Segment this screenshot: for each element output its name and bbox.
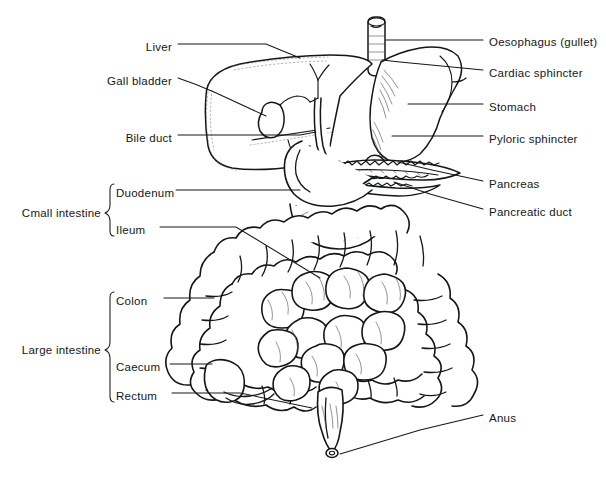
anus-organ [326,449,338,458]
label-rectum: Rectum [116,390,157,402]
label-gall-bladder: Gall bladder [107,75,172,87]
label-pyloric-sphincter: Pyloric sphincter [489,133,578,145]
label-large-intestine: Large intestine [22,344,101,356]
label-caecum: Caecum [116,361,160,373]
label-oesophagus: Oesophagus (gullet) [489,36,597,48]
label-pancreatic-duct: Pancreatic duct [489,206,573,218]
label-pancreas: Pancreas [489,178,540,190]
label-colon: Colon [116,295,147,307]
label-cardiac-sphincter: Cardiac sphincter [489,67,583,79]
label-duodenum: Duodenum [116,187,174,199]
label-bile-duct: Bile duct [126,132,173,144]
label-liver: Liver [146,41,172,53]
label-stomach: Stomach [489,101,536,113]
digestive-system-diagram: Liver Gall bladder Bile duct Cmall intes… [0,0,606,477]
label-small-intestine: Cmall intestine [22,207,101,219]
label-ileum: Ileum [116,224,145,236]
label-anus: Anus [489,412,516,424]
